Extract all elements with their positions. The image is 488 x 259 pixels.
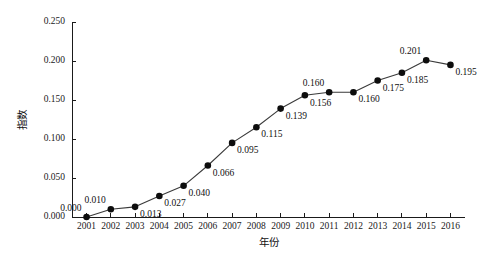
x-tick-label: 2004 — [150, 221, 169, 231]
x-tick-label: 2011 — [320, 221, 339, 231]
data-point-marker — [399, 69, 406, 76]
data-point-label: 0.139 — [286, 111, 308, 121]
x-tick-label: 2001 — [77, 221, 96, 231]
data-point-label: 0.010 — [84, 195, 106, 205]
x-tick-label: 2014 — [392, 221, 411, 231]
data-point-label: 0.013 — [140, 209, 162, 219]
x-tick-label: 2016 — [441, 221, 460, 231]
y-tick-label: 0.250 — [44, 16, 66, 26]
data-point-marker — [156, 193, 163, 200]
data-point-marker — [326, 89, 333, 96]
data-point-label: 0.066 — [213, 168, 235, 178]
x-tick-label: 2005 — [174, 221, 193, 231]
line-chart: 0.0000.0500.1000.1500.2000.250 200120022… — [0, 0, 488, 259]
x-tick-label: 2002 — [101, 221, 120, 231]
x-tick-label: 2007 — [223, 221, 242, 231]
data-point-marker — [350, 89, 357, 96]
x-tick-label: 2009 — [271, 221, 290, 231]
data-point-marker — [229, 140, 236, 147]
data-point-labels: 0.0000.0100.0130.0270.0400.0660.0950.115… — [60, 46, 477, 219]
data-point-label: 0.115 — [261, 129, 282, 139]
y-tick-label: 0.200 — [44, 55, 66, 65]
y-tick-label: 0.150 — [44, 94, 66, 104]
x-tick-label: 2006 — [198, 221, 217, 231]
data-point-marker — [132, 204, 139, 211]
x-tick-label: 2013 — [368, 221, 387, 231]
y-axis-title: 指数 — [16, 109, 28, 130]
data-point-label: 0.027 — [164, 198, 186, 208]
y-tick-label: 0.050 — [44, 172, 66, 182]
data-point-label: 0.095 — [237, 145, 259, 155]
x-axis-title: 年份 — [259, 236, 280, 248]
data-point-label: 0.175 — [383, 83, 405, 93]
data-point-marker — [205, 162, 212, 169]
data-point-label: 0.000 — [60, 203, 82, 213]
data-point-marker — [423, 57, 430, 64]
data-point-marker — [374, 77, 381, 84]
x-tick-label: 2010 — [295, 221, 314, 231]
data-point-marker — [180, 183, 187, 190]
data-point-label: 0.201 — [400, 46, 422, 56]
data-point-label: 0.195 — [455, 67, 477, 77]
chart-canvas: 0.0000.0500.1000.1500.2000.250 200120022… — [0, 0, 488, 259]
x-tick-label: 2008 — [247, 221, 266, 231]
data-point-label: 0.160 — [358, 94, 380, 104]
y-tick-label: 0.100 — [44, 133, 66, 143]
x-tick-label: 2003 — [126, 221, 145, 231]
data-point-marker — [447, 62, 454, 69]
data-point-marker — [83, 214, 90, 221]
data-point-marker — [277, 105, 284, 112]
y-axis-ticks: 0.0000.0500.1000.1500.2000.250 — [44, 16, 76, 221]
x-tick-label: 2012 — [344, 221, 363, 231]
data-point-marker — [302, 92, 309, 99]
data-point-label: 0.156 — [310, 98, 332, 108]
data-point-marker — [253, 124, 260, 131]
x-axis-ticks: 2001200220032004200520062007200820092010… — [77, 213, 460, 231]
data-point-label: 0.040 — [189, 188, 211, 198]
data-point-label: 0.160 — [303, 78, 325, 88]
x-tick-label: 2015 — [417, 221, 436, 231]
data-point-label: 0.185 — [407, 75, 429, 85]
data-point-marker — [108, 206, 115, 213]
